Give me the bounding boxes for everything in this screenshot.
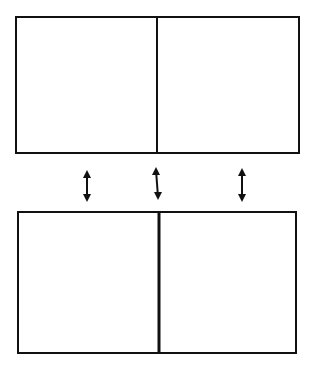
double-arrow-center-icon [152,167,162,200]
top-box [16,17,299,153]
bottom-box [18,212,296,353]
bottom-box-outline [18,212,296,353]
double-arrow-left-icon [83,170,91,202]
diagram-canvas [0,0,316,365]
double-arrow-right-icon [238,168,246,202]
arrows [83,167,246,202]
